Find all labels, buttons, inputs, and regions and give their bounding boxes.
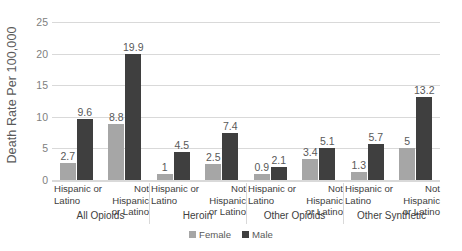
bar-value-label-male: 5.1 [320, 135, 335, 147]
bar-male [368, 144, 384, 180]
bar-female [205, 164, 221, 180]
bars-layer: 2.79.68.819.914.52.57.40.92.13.45.11.35.… [52, 22, 440, 180]
category-label-line2: Latino [151, 195, 200, 207]
legend-label: Male [252, 229, 273, 240]
group-separator [246, 183, 247, 224]
bar-male [271, 167, 287, 180]
bar-value-label-male: 19.9 [123, 41, 143, 53]
category-label-line1: Not Hispanic [198, 183, 247, 206]
legend-swatch-icon [189, 231, 196, 238]
category-label: Hispanic orLatino [149, 183, 200, 207]
bar-female [60, 163, 76, 180]
group-label: Heroin [149, 209, 246, 224]
bar-value-label-female: 5 [404, 135, 410, 147]
group-label: All Opioids [52, 209, 149, 224]
bar-value-label-male: 7.4 [223, 120, 238, 132]
category-label-line1: Hispanic or [248, 183, 297, 195]
category-label: Not Hispanicor Latino [101, 183, 152, 207]
category-label: Not Hispanicor Latino [198, 183, 249, 207]
bar-female [351, 172, 367, 180]
y-tick-label: 15 [4, 79, 48, 91]
bar-value-label-male: 5.7 [368, 131, 383, 143]
y-tick-label: 0 [4, 174, 48, 186]
bar-male [77, 119, 93, 180]
y-tick-label: 25 [4, 16, 48, 28]
bar-value-label-female: 1.3 [351, 159, 366, 171]
legend-label: Female [199, 229, 231, 240]
group-separator [343, 183, 344, 224]
category-label: Hispanic orLatino [52, 183, 103, 207]
bar-male [222, 133, 238, 180]
legend-item[interactable]: Female [189, 229, 231, 240]
bar-value-label-male: 9.6 [77, 106, 92, 118]
bar-chart: Death Rate Per 100,000 0510152025 2.79.6… [0, 0, 462, 251]
category-label: Not Hispanicor Latino [295, 183, 346, 207]
category-label: Hispanic orLatino [246, 183, 297, 207]
category-label-line1: Hispanic or [54, 183, 103, 195]
category-label-line1: Hispanic or [345, 183, 394, 195]
category-label-line2: Latino [248, 195, 297, 207]
category-label-line1: Not Hispanic [101, 183, 150, 206]
category-label-line1: Not Hispanic [295, 183, 344, 206]
category-label-line2: Latino [54, 195, 103, 207]
bar-male [125, 54, 141, 180]
category-label: Not Hispanicor Latino [392, 183, 443, 207]
bar-female [399, 148, 415, 180]
y-axis-tick-labels: 0510152025 [0, 22, 48, 180]
chart-legend: FemaleMale [0, 229, 462, 240]
bar-male [416, 97, 432, 180]
legend-item[interactable]: Male [242, 229, 273, 240]
category-label-line1: Not Hispanic [392, 183, 441, 206]
group-separator [149, 183, 150, 224]
bar-male [174, 152, 190, 180]
legend-swatch-icon [242, 231, 249, 238]
category-label-line1: Hispanic or [151, 183, 200, 195]
bar-female [302, 159, 318, 180]
bar-value-label-female: 1 [162, 161, 168, 173]
y-tick-label: 10 [4, 111, 48, 123]
bar-female [157, 174, 173, 180]
x-axis-category-labels: Hispanic orLatinoNot Hispanicor LatinoHi… [52, 181, 440, 225]
bar-male [319, 148, 335, 180]
group-label: Other Opioids [246, 209, 343, 224]
bar-value-label-female: 3.4 [303, 146, 318, 158]
bar-value-label-male: 13.2 [414, 84, 434, 96]
bar-female [254, 174, 270, 180]
bar-value-label-male: 2.1 [271, 154, 286, 166]
bar-value-label-female: 8.8 [109, 111, 124, 123]
bar-female [108, 124, 124, 180]
y-tick-label: 5 [4, 142, 48, 154]
bar-value-label-female: 2.7 [60, 150, 75, 162]
category-label: Hispanic orLatino [343, 183, 394, 207]
group-label: Other Synthetic [343, 209, 440, 224]
bar-value-label-female: 0.9 [254, 161, 269, 173]
bar-value-label-male: 4.5 [174, 139, 189, 151]
bar-value-label-female: 2.5 [206, 151, 221, 163]
y-tick-label: 20 [4, 48, 48, 60]
category-label-line2: Latino [345, 195, 394, 207]
